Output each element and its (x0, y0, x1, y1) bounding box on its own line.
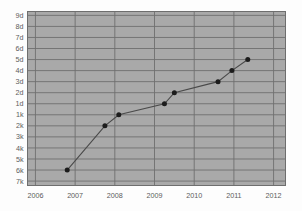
y-axis-tick-label: 5d (16, 55, 24, 64)
x-axis-tick-label: 2008 (107, 191, 123, 200)
line-chart: 9d8d7d6d5d4d3d2d1d1k2k3k4k5k6k7k 2006200… (0, 0, 302, 211)
y-axis-tick-labels: 9d8d7d6d5d4d3d2d1d1k2k3k4k5k6k7k (16, 11, 24, 186)
y-axis-tick-label: 7d (16, 33, 24, 42)
x-axis-tick-label: 2012 (266, 191, 282, 200)
data-point-marker (245, 57, 250, 62)
y-axis-tick-label: 8d (16, 22, 24, 31)
data-point-marker (172, 90, 177, 95)
chart-container: 9d8d7d6d5d4d3d2d1d1k2k3k4k5k6k7k 2006200… (0, 0, 302, 211)
x-axis-tick-label: 2010 (186, 191, 202, 200)
data-point-marker (229, 68, 234, 73)
y-axis-tick-label: 4d (16, 66, 24, 75)
y-axis-tick-label: 2d (16, 88, 24, 97)
y-axis-tick-label: 2k (16, 121, 24, 130)
data-point-marker (65, 168, 70, 173)
data-point-marker (102, 123, 107, 128)
y-axis-tick-label: 5k (16, 155, 24, 164)
x-axis-tick-label: 2011 (226, 191, 241, 200)
y-axis-tick-label: 1d (16, 99, 24, 108)
y-axis-tick-label: 7k (16, 177, 24, 186)
x-axis-tick-label: 2006 (27, 191, 43, 200)
y-axis-tick-label: 6k (16, 166, 24, 175)
y-axis-tick-label: 1k (16, 110, 24, 119)
y-axis-tick-label: 3d (16, 77, 24, 86)
data-point-marker (216, 79, 221, 84)
y-axis-tick-label: 6d (16, 44, 24, 53)
x-axis-tick-label: 2009 (147, 191, 163, 200)
x-axis-tick-label: 2007 (67, 191, 83, 200)
y-axis-tick-label: 9d (16, 11, 24, 20)
x-axis-tick-labels: 2006200720082009201020112012 (27, 191, 281, 200)
data-point-marker (116, 112, 121, 117)
data-point-marker (162, 101, 167, 106)
y-axis-tick-label: 4k (16, 144, 24, 153)
y-axis-tick-label: 3k (16, 132, 24, 141)
